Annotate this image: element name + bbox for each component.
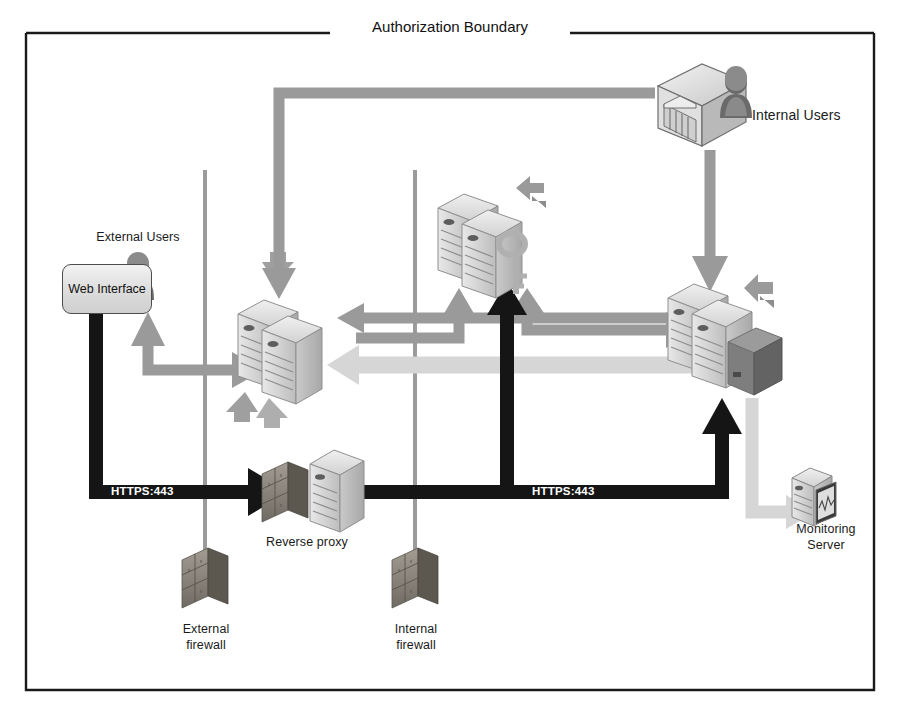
web-interface-label: Web Interface: [68, 282, 146, 297]
https-label-right: HTTPS:443: [532, 484, 595, 498]
architecture-diagram-svg: [0, 0, 900, 704]
monitoring-server-icon: [792, 468, 836, 526]
page-title: Authorization Boundary: [0, 18, 900, 35]
authorization-boundary-label: Authorization Boundary: [365, 18, 535, 35]
storage-box-icon: [728, 328, 782, 395]
connection-black-vertical-to-app-cluster: [487, 281, 527, 492]
app-cluster-arrow-decor: [516, 176, 546, 208]
monitoring-server-label-line2: Server: [780, 538, 872, 552]
diagram-canvas: Authorization Boundary Internal Users Ex…: [0, 0, 900, 704]
web-interface-box[interactable]: Web Interface: [62, 264, 152, 314]
internal-users-icon: [658, 64, 752, 146]
internal-firewall-label-line2: firewall: [378, 638, 454, 652]
web-server-cluster-icon: [238, 300, 322, 404]
reverse-proxy-label: Reverse proxy: [266, 535, 348, 549]
reverse-proxy-brick-icon: [262, 462, 308, 522]
https-label-left: HTTPS:443: [111, 484, 174, 498]
monitoring-server-label-line1: Monitoring: [780, 522, 872, 536]
app-server-cluster-icon: [438, 194, 522, 298]
db-cluster-arrow-decor: [744, 274, 774, 308]
external-firewall-icon: [182, 548, 228, 608]
external-users-label: External Users: [68, 230, 208, 244]
connection-internal-users-to-db-cluster: [692, 150, 728, 292]
internal-firewall-icon: [392, 548, 438, 608]
internal-firewall-label-line1: Internal: [378, 622, 454, 636]
external-firewall-label-line1: External: [168, 622, 244, 636]
reverse-proxy-server-icon: [310, 450, 364, 532]
external-firewall-label-line2: firewall: [168, 638, 244, 652]
internal-users-label: Internal Users: [752, 108, 841, 122]
